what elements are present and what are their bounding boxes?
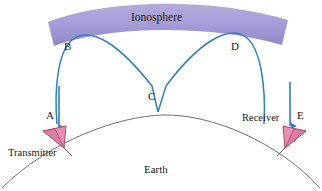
ionosphere-propagation-diagram: Ionosphere B D C A E Transmitter Receive… [0,0,322,191]
receiver-antenna [277,126,306,156]
wave-segment-c-d-e [158,33,264,124]
wave-path [56,33,264,124]
ionosphere-band [48,4,288,46]
earth-surface-arc [2,115,320,188]
diagram-canvas [0,0,322,191]
wave-segment-a-b-c [56,35,158,124]
